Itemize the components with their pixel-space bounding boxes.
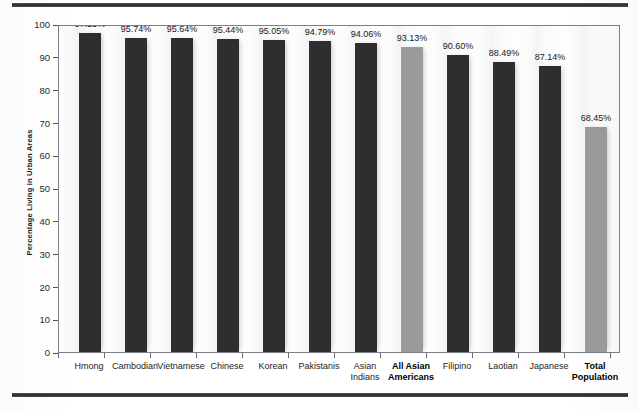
x-axis-tick-mark: [610, 353, 611, 358]
bar-value-label: 93.13%: [389, 34, 435, 43]
y-axis: 1009080706050403020100: [26, 25, 58, 353]
bar[interactable]: [585, 127, 607, 352]
page-rule-bottom: [12, 393, 628, 397]
x-axis-category-label-line1: Hmong: [74, 361, 103, 371]
y-axis-tick-label: 70: [39, 119, 50, 129]
x-axis-category-label-line1: Asian: [354, 361, 377, 371]
y-axis-tick: 40: [39, 216, 58, 228]
x-axis-category-label-line1: Chinese: [210, 361, 243, 371]
plot-area: 97.25%95.74%95.64%95.44%95.05%94.79%94.0…: [58, 25, 620, 353]
y-axis-tick-label: 100: [34, 20, 50, 30]
bar[interactable]: [263, 40, 285, 352]
x-axis-tick-mark: [518, 353, 519, 358]
bar[interactable]: [355, 43, 377, 352]
x-axis-category-label-line1: Filipino: [443, 361, 472, 371]
page-rule-top: [12, 3, 628, 7]
y-axis-tick: 100: [34, 19, 58, 31]
x-axis-tick-mark: [564, 353, 565, 358]
bar-value-label: 88.49%: [481, 49, 527, 58]
y-axis-tick-label: 10: [39, 315, 50, 325]
x-axis-tick-mark: [288, 353, 289, 358]
bar-value-label: 95.64%: [159, 25, 205, 34]
y-axis-tick: 90: [39, 52, 58, 64]
x-axis-tick-mark: [196, 353, 197, 358]
x-axis-category-label-line1: Japanese: [529, 361, 568, 371]
x-axis-tick-mark: [334, 353, 335, 358]
x-axis-ticks: [58, 353, 620, 359]
x-axis-category-label-line1: Total: [585, 361, 606, 371]
bar[interactable]: [493, 62, 515, 352]
y-axis-tick: 30: [39, 249, 58, 261]
bar-value-label: 94.06%: [343, 30, 389, 39]
y-axis-tick-label: 0: [45, 348, 50, 358]
bar-value-label: 97.25%: [67, 25, 113, 29]
bar-value-label: 94.79%: [297, 28, 343, 37]
bar-value-label: 87.14%: [527, 53, 573, 62]
bar[interactable]: [217, 39, 239, 352]
x-axis-tick-mark: [242, 353, 243, 358]
y-axis-tick: 0: [45, 347, 58, 359]
x-axis-tick-mark: [104, 353, 105, 358]
x-axis-tick-mark: [380, 353, 381, 358]
y-axis-tick: 10: [39, 314, 58, 326]
y-axis-tick: 60: [39, 150, 58, 162]
chart-figure: Percentage Living in Urban Areas 1009080…: [0, 0, 638, 410]
bar-value-label: 68.45%: [573, 114, 619, 123]
x-axis-tick-mark: [150, 353, 151, 358]
x-axis-tick-mark: [472, 353, 473, 358]
x-axis-tick-mark: [58, 353, 59, 358]
x-axis-tick-mark: [426, 353, 427, 358]
y-axis-tick-label: 80: [39, 86, 50, 96]
bar[interactable]: [401, 47, 423, 352]
bar[interactable]: [309, 41, 331, 352]
y-axis-tick: 50: [39, 183, 58, 195]
y-axis-tick-label: 60: [39, 151, 50, 161]
bar[interactable]: [539, 66, 561, 352]
bar[interactable]: [79, 33, 101, 352]
y-axis-tick-label: 90: [39, 53, 50, 63]
x-axis-labels: HmongCambodianVietnameseChineseKoreanPak…: [58, 361, 620, 391]
bar-value-label: 95.74%: [113, 25, 159, 34]
x-axis-category-label-line2: Americans: [380, 372, 442, 383]
bar[interactable]: [447, 55, 469, 352]
x-axis-category-label: TotalPopulation: [564, 361, 626, 382]
y-axis-tick-label: 20: [39, 283, 50, 293]
bar[interactable]: [125, 38, 147, 352]
bar-value-label: 95.44%: [205, 26, 251, 35]
bar-value-label: 90.60%: [435, 42, 481, 51]
y-axis-tick-label: 30: [39, 250, 50, 260]
bar-value-label: 95.05%: [251, 27, 297, 36]
y-axis-tick-label: 50: [39, 184, 50, 194]
x-axis-category-label-line1: Korean: [258, 361, 287, 371]
y-axis-tick: 20: [39, 281, 58, 293]
y-axis-tick: 80: [39, 85, 58, 97]
y-axis-tick: 70: [39, 117, 58, 129]
bar-series: 97.25%95.74%95.64%95.44%95.05%94.79%94.0…: [59, 26, 619, 352]
x-axis-category-label-line1: Laotian: [488, 361, 518, 371]
y-axis-tick-label: 40: [39, 217, 50, 227]
x-axis-category-label-line2: Population: [564, 372, 626, 383]
x-axis-category-label-line1: All Asian: [392, 361, 430, 371]
bar[interactable]: [171, 38, 193, 352]
